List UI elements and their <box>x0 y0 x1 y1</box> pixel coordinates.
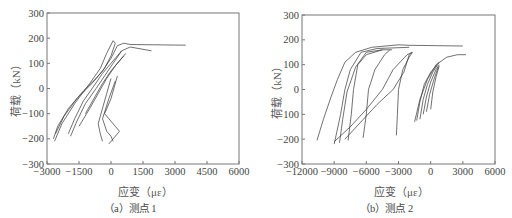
x-tick-label: −12000 <box>286 166 318 177</box>
x-tick-label: −3000 <box>34 166 61 177</box>
chart-panel-a: −300−200−1000100200300−3000−150001500300… <box>0 0 256 218</box>
y-tick-label: −200 <box>277 134 299 145</box>
x-tick-label: 1500 <box>133 166 154 177</box>
plot-frame <box>47 13 239 164</box>
y-tick-label: −100 <box>22 108 44 119</box>
hysteresis-curve <box>105 76 120 144</box>
hysteresis-curve <box>345 52 412 139</box>
x-tick-label: −3000 <box>385 166 412 177</box>
chart-a-xlabel: 应变（με） <box>118 183 173 199</box>
x-tick-label: 6000 <box>229 166 250 177</box>
hysteresis-curve <box>340 50 393 143</box>
y-tick-label: 100 <box>28 58 44 69</box>
chart-a-caption: （a）测点 1 <box>104 200 157 215</box>
x-tick-label: 3000 <box>452 166 473 177</box>
hysteresis-curve <box>68 51 121 134</box>
x-tick-label: 0 <box>108 166 113 177</box>
y-tick-label: 0 <box>294 84 299 95</box>
hysteresis-curve <box>56 43 186 134</box>
hysteresis-curve <box>348 50 382 141</box>
x-tick-label: 4500 <box>197 166 218 177</box>
chart-b-ylabel: 荷载（kN） <box>268 55 284 125</box>
x-tick-label: 0 <box>428 166 433 177</box>
y-tick-label: 0 <box>39 83 44 94</box>
x-tick-label: −9000 <box>321 166 348 177</box>
chart-b-xlabel: 应变（με） <box>374 183 429 199</box>
y-tick-label: 100 <box>283 59 299 70</box>
hysteresis-curve <box>415 55 466 122</box>
y-tick-label: −200 <box>22 133 44 144</box>
chart-b-caption: （b）测点 2 <box>360 200 413 215</box>
x-tick-label: 6000 <box>485 166 506 177</box>
hysteresis-curve <box>417 65 437 121</box>
y-tick-label: 300 <box>283 10 299 21</box>
y-tick-label: 300 <box>28 8 44 19</box>
chart-panel-b: −300−200−1000100200300−12000−9000−6000−3… <box>256 0 512 218</box>
hysteresis-curve <box>363 50 390 138</box>
x-tick-label: −6000 <box>353 166 380 177</box>
hysteresis-curve <box>396 52 412 135</box>
y-tick-label: 200 <box>28 33 44 44</box>
x-tick-label: 3000 <box>165 166 186 177</box>
chart-a-ylabel: 荷载（kN） <box>7 53 23 123</box>
y-tick-label: 200 <box>283 34 299 45</box>
x-tick-label: −1500 <box>66 166 93 177</box>
